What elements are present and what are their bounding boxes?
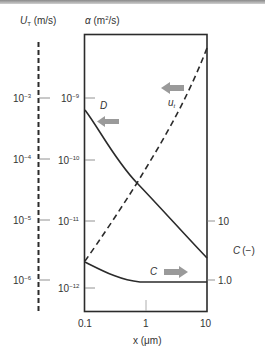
alpha-tick-label: 10−12 (58, 283, 80, 294)
arrow-left-icon (97, 116, 119, 127)
series-d-label: D (100, 100, 107, 111)
alpha-tick-label: 10−11 (58, 216, 80, 227)
series-c-label: C (150, 266, 158, 277)
x-axis-title: x (μm) (133, 335, 162, 346)
c-tick-label: 10 (218, 216, 230, 227)
x-tick-label: 1 (143, 318, 149, 329)
x-tick-label: 0.1 (78, 318, 92, 329)
ut-tick-label: 10−3 (13, 93, 32, 104)
ut-tick-label: 10−5 (13, 215, 32, 226)
series-ut-label: ut (168, 97, 176, 109)
series-c-line (85, 262, 207, 282)
alpha-tick-label: 10−10 (58, 155, 80, 166)
chart: UT (m/s) α (m2/s) 10−3 10−4 10−5 10−6 10… (0, 0, 265, 362)
ut-axis-title: UT (m/s) (20, 15, 56, 27)
arrow-right-icon (164, 266, 188, 278)
alpha-tick-label: 10−9 (61, 93, 80, 104)
alpha-axis-title: α (m2/s) (85, 15, 120, 26)
c-axis-ticks (207, 221, 215, 280)
arrow-left-icon (161, 82, 184, 94)
ut-tick-label: 10−4 (13, 154, 32, 165)
c-axis-title: C(−) (233, 245, 255, 256)
ut-axis-ticks (39, 98, 50, 280)
x-tick-label: 10 (200, 318, 212, 329)
ut-tick-label: 10−6 (13, 275, 32, 286)
c-tick-label: 1.0 (218, 275, 232, 286)
series-ut-line (85, 48, 207, 261)
